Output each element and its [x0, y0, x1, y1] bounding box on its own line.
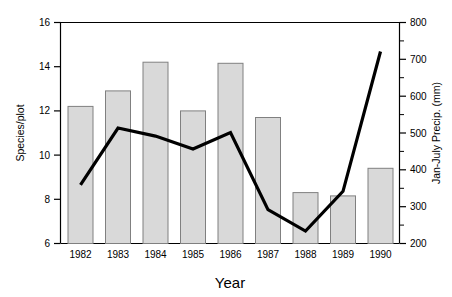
bar-1984 [143, 62, 168, 243]
right-tick-label-600: 600 [410, 91, 427, 102]
left-tick-label-14: 14 [39, 61, 51, 72]
bar-1990 [368, 168, 393, 243]
bar-1983 [106, 91, 131, 244]
right-axis-title: Jan-July Precip. (mm) [430, 82, 442, 184]
x-axis-title: Year [215, 274, 245, 291]
x-axis-tick-labels: 1982 1983 1984 1985 1986 1987 1988 1989 … [69, 249, 392, 260]
left-tick-label-10: 10 [39, 150, 51, 161]
x-tick-label-1990: 1990 [369, 249, 392, 260]
chart-container: 16 14 12 10 8 6 800 700 600 500 [0, 0, 452, 297]
right-tick-label-400: 400 [410, 164, 427, 175]
left-axis-title: Species/plot [14, 104, 26, 161]
x-tick-label-1984: 1984 [144, 249, 167, 260]
x-tick-label-1987: 1987 [257, 249, 280, 260]
right-tick-label-800: 800 [410, 17, 427, 28]
left-tick-label-16: 16 [39, 17, 51, 28]
left-tick-label-12: 12 [39, 105, 51, 116]
right-tick-label-300: 300 [410, 201, 427, 212]
x-tick-label-1988: 1988 [294, 249, 317, 260]
x-tick-label-1985: 1985 [182, 249, 205, 260]
x-tick-label-1989: 1989 [332, 249, 355, 260]
bar-1982 [68, 106, 93, 243]
right-tick-label-700: 700 [410, 54, 427, 65]
bar-1985 [181, 111, 206, 244]
species-precipitation-chart: 16 14 12 10 8 6 800 700 600 500 [0, 0, 452, 297]
bar-1987 [256, 118, 281, 244]
bar-1988 [293, 193, 318, 244]
left-tick-label-8: 8 [44, 194, 50, 205]
x-tick-label-1982: 1982 [69, 249, 92, 260]
right-tick-label-500: 500 [410, 128, 427, 139]
bar-1989 [331, 196, 356, 244]
x-tick-label-1986: 1986 [219, 249, 242, 260]
x-tick-label-1983: 1983 [107, 249, 130, 260]
right-tick-label-200: 200 [410, 238, 427, 249]
left-tick-label-6: 6 [44, 238, 50, 249]
